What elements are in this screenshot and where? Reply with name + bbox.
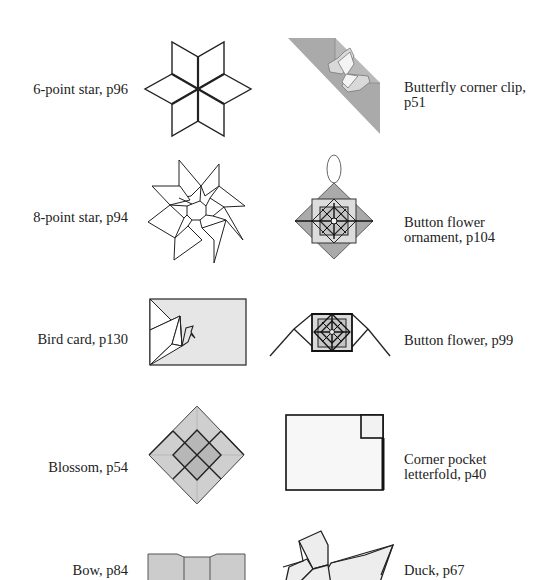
item-label-line2: ornament, p104 (404, 230, 495, 245)
item-label-blossom: Blossom, p54 (0, 460, 128, 475)
corner-pocket-letterfold-icon (285, 413, 385, 493)
butterfly-corner-clip-icon (288, 38, 380, 134)
blossom-icon (148, 405, 246, 505)
item-label-bird-card: Bird card, p130 (0, 332, 128, 347)
item-label-duck: Duck, p67 (404, 563, 464, 578)
duck-icon (283, 525, 395, 580)
button-flower-ornament-icon (293, 155, 375, 261)
eight-point-star-icon (148, 160, 246, 264)
item-label-line1: Corner pocket (404, 452, 487, 467)
bow-icon (147, 553, 247, 580)
item-label-bow: Bow, p84 (0, 563, 128, 578)
item-label-butterfly-corner-clip: Butterfly corner clip, p51 (404, 80, 526, 110)
button-flower-icon (270, 311, 396, 361)
item-label-button-flower: Button flower, p99 (404, 333, 513, 348)
item-label-6-point-star: 6-point star, p96 (0, 82, 128, 97)
item-label-button-flower-ornament: Button flower ornament, p104 (404, 215, 495, 245)
item-label-8-point-star: 8-point star, p94 (0, 210, 128, 225)
bird-card-icon (149, 298, 247, 366)
item-label-line1: Butterfly corner clip, (404, 80, 526, 95)
item-label-corner-pocket-letterfold: Corner pocket letterfold, p40 (404, 452, 487, 482)
item-label-line2: p51 (404, 95, 526, 110)
six-point-star-icon (145, 40, 251, 138)
item-label-line1: Button flower (404, 215, 495, 230)
item-label-line2: letterfold, p40 (404, 467, 487, 482)
